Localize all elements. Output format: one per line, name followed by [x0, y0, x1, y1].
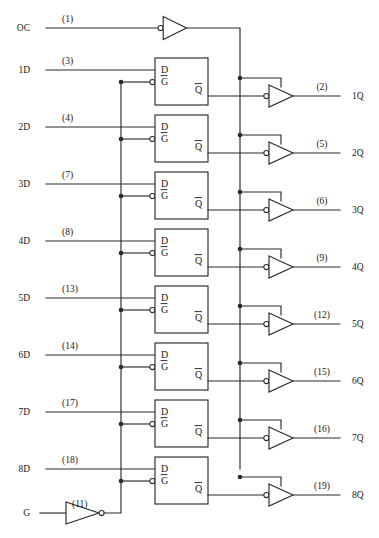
q-output-pin-3: (6): [316, 196, 327, 207]
latch-qbar-pin-label-2: Q: [195, 141, 203, 152]
latch-d-pin-label-8: D: [161, 463, 168, 474]
q-output-label-5: 5Q: [352, 319, 364, 329]
output-buffer-triangle-2: [269, 142, 293, 164]
g-bus-junction-6: [119, 365, 124, 370]
g-bus-junction-5: [119, 308, 124, 313]
latch-d-pin-label-6: D: [161, 349, 168, 360]
buffer-enable-wire-8: [240, 477, 281, 486]
g-input-pin: (11): [72, 499, 87, 510]
d-input-label-3: 3D: [18, 179, 30, 189]
buffer-enable-wire-1: [240, 78, 281, 87]
latch-d-pin-label-1: D: [161, 64, 168, 75]
d-input-pin-5: (13): [62, 284, 78, 295]
latch-gbar-pin-label-1: G: [161, 76, 168, 87]
q-output-pin-8: (19): [314, 481, 330, 492]
g-bus-junction-4: [119, 251, 124, 256]
oc-bus-junction-8: [238, 475, 243, 480]
latch-gbar-bubble-1: [150, 79, 155, 84]
d-input-label-7: 7D: [18, 407, 30, 417]
d-input-label-4: 4D: [18, 236, 30, 246]
q-output-label-1: 1Q: [352, 91, 364, 101]
q-output-label-4: 4Q: [352, 262, 364, 272]
latch-d-pin-label-5: D: [161, 292, 168, 303]
g-bus-junction-8: [119, 479, 124, 484]
channel-row-1: [46, 58, 340, 107]
channel-row-2: [46, 115, 340, 164]
output-buffer-triangle-7: [269, 427, 293, 449]
output-buffer-triangle-4: [269, 256, 293, 278]
latch-d-pin-label-7: D: [161, 406, 168, 417]
output-buffer-bubble-2: [264, 150, 269, 155]
channel-row-3: [46, 172, 340, 221]
latch-gbar-pin-label-6: G: [161, 361, 168, 372]
latch-gbar-pin-label-2: G: [161, 133, 168, 144]
g-bus-junction-2: [119, 137, 124, 142]
d-input-label-8: 8D: [18, 464, 30, 474]
g-bus-junction-3: [119, 194, 124, 199]
latch-gbar-bubble-2: [150, 136, 155, 141]
latch-gbar-bubble-8: [150, 478, 155, 483]
output-buffer-bubble-5: [264, 321, 269, 326]
oc-input-pin: (1): [62, 14, 73, 25]
latch-d-pin-label-4: D: [161, 235, 168, 246]
channel-row-6: [46, 343, 340, 392]
oc-input-label: OC: [17, 23, 30, 33]
q-output-label-6: 6Q: [352, 376, 364, 386]
d-input-label-2: 2D: [18, 122, 30, 132]
oc-bus-junction-7: [238, 418, 243, 423]
latch-qbar-pin-label-4: Q: [195, 255, 203, 266]
output-buffer-triangle-8: [269, 484, 293, 506]
output-buffer-bubble-1: [264, 93, 269, 98]
latch-gbar-bubble-5: [150, 307, 155, 312]
q-output-pin-6: (15): [314, 367, 330, 378]
latch-qbar-pin-label-6: Q: [195, 369, 203, 380]
latch-gbar-bubble-4: [150, 250, 155, 255]
d-input-pin-2: (4): [62, 113, 73, 124]
latch-gbar-pin-label-7: G: [161, 418, 168, 429]
oc-bus-junction-3: [238, 190, 243, 195]
q-output-pin-2: (5): [316, 139, 327, 150]
output-buffer-bubble-3: [264, 207, 269, 212]
channel-row-4: [46, 229, 340, 278]
latch-qbar-pin-label-5: Q: [195, 312, 203, 323]
q-output-label-8: 8Q: [352, 490, 364, 500]
q-output-label-3: 3Q: [352, 205, 364, 215]
oc-buffer-input-bubble: [158, 25, 163, 30]
logic-diagram-canvas: 1D(3)1Q(2)DGQ2D(4)2Q(5)DGQ3D(7)3Q(6)DGQ4…: [0, 0, 379, 538]
oc-bus-junction-5: [238, 304, 243, 309]
output-buffer-bubble-6: [264, 378, 269, 383]
g-inverter-output-bubble: [99, 510, 104, 515]
d-input-label-5: 5D: [18, 293, 30, 303]
g-control-group: [40, 82, 121, 524]
latch-gbar-bubble-6: [150, 364, 155, 369]
d-input-pin-8: (18): [62, 455, 78, 466]
g-bus-junction-7: [119, 422, 124, 427]
buffer-enable-wire-2: [240, 135, 281, 144]
g-bus-junction-1: [119, 80, 124, 85]
latch-gbar-pin-label-3: G: [161, 190, 168, 201]
buffer-enable-wire-5: [240, 306, 281, 315]
buffer-enable-wire-7: [240, 420, 281, 429]
output-buffer-triangle-3: [269, 199, 293, 221]
output-buffer-bubble-8: [264, 492, 269, 497]
d-input-pin-7: (17): [62, 398, 78, 409]
latch-d-pin-label-2: D: [161, 121, 168, 132]
channel-row-7: [46, 400, 340, 449]
oc-bus-junction-6: [238, 361, 243, 366]
g-input-label: G: [23, 508, 30, 518]
channel-row-5: [46, 286, 340, 335]
q-output-pin-5: (12): [314, 310, 330, 321]
q-output-pin-4: (9): [316, 253, 327, 264]
latch-gbar-bubble-7: [150, 421, 155, 426]
output-buffer-bubble-4: [264, 264, 269, 269]
output-buffer-triangle-5: [269, 313, 293, 335]
latch-gbar-pin-label-8: G: [161, 475, 168, 486]
d-input-label-1: 1D: [18, 65, 30, 75]
output-buffer-triangle-1: [269, 85, 293, 107]
schematic-svg: 1D(3)1Q(2)DGQ2D(4)2Q(5)DGQ3D(7)3Q(6)DGQ4…: [0, 0, 379, 538]
oc-buffer-triangle: [163, 17, 186, 40]
oc-bus-junction-1: [238, 76, 243, 81]
latch-qbar-pin-label-8: Q: [195, 483, 203, 494]
channel-rows-layer: [46, 58, 340, 506]
buffer-enable-wire-4: [240, 249, 281, 258]
